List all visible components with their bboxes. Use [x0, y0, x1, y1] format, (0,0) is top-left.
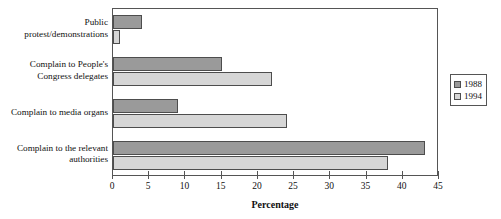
- chart-legend: 1988 1994: [450, 74, 487, 106]
- x-tick: [184, 171, 185, 179]
- bar-1988-4: [113, 141, 425, 155]
- x-tick: [112, 171, 113, 179]
- x-tick-label: 10: [172, 181, 196, 191]
- legend-label-1988: 1988: [464, 79, 482, 89]
- x-tick: [402, 171, 403, 179]
- x-tick: [257, 171, 258, 179]
- bar-1994-1: [113, 30, 120, 44]
- x-tick-label: 15: [209, 181, 233, 191]
- legend-item-1994: 1994: [454, 90, 482, 102]
- x-tick: [438, 171, 439, 179]
- bar-1988-1: [113, 15, 142, 29]
- x-tick: [329, 171, 330, 179]
- x-tick-label: 25: [281, 181, 305, 191]
- legend-item-1988: 1988: [454, 78, 482, 90]
- x-tick-label: 35: [354, 181, 378, 191]
- x-tick-label: 0: [100, 181, 124, 191]
- x-tick-label: 40: [390, 181, 414, 191]
- category-label: Complain to the relevantauthorities: [0, 143, 108, 166]
- x-tick-label: 20: [245, 181, 269, 191]
- bar-group: [113, 51, 437, 93]
- legend-label-1994: 1994: [464, 91, 482, 101]
- x-tick: [221, 171, 222, 179]
- category-label: Publicprotest/demonstrations: [0, 17, 108, 40]
- legend-swatch-icon-1988: [454, 81, 461, 88]
- x-tick-label: 30: [317, 181, 341, 191]
- legend-swatch-icon-1994: [454, 93, 461, 100]
- bar-1988-3: [113, 99, 178, 113]
- bar-group: [113, 134, 437, 176]
- bar-group: [113, 9, 437, 51]
- bar-chart: Publicprotest/demonstrationsComplain to …: [0, 0, 501, 219]
- x-tick-label: 5: [136, 181, 160, 191]
- bar-1994-2: [113, 72, 272, 86]
- x-axis-title: Percentage: [112, 199, 438, 210]
- bar-1994-4: [113, 156, 388, 170]
- plot-area: [112, 8, 438, 175]
- x-tick: [293, 171, 294, 179]
- x-tick: [366, 171, 367, 179]
- x-axis-line: [112, 175, 438, 176]
- bar-group: [113, 93, 437, 135]
- category-label: Complain to media organs: [0, 107, 108, 119]
- x-tick: [148, 171, 149, 179]
- bar-1988-2: [113, 57, 222, 71]
- bar-1994-3: [113, 114, 287, 128]
- category-axis-labels: Publicprotest/demonstrationsComplain to …: [0, 0, 110, 175]
- x-tick-label: 45: [426, 181, 450, 191]
- category-label: Complain to People'sCongress delegates: [0, 59, 108, 82]
